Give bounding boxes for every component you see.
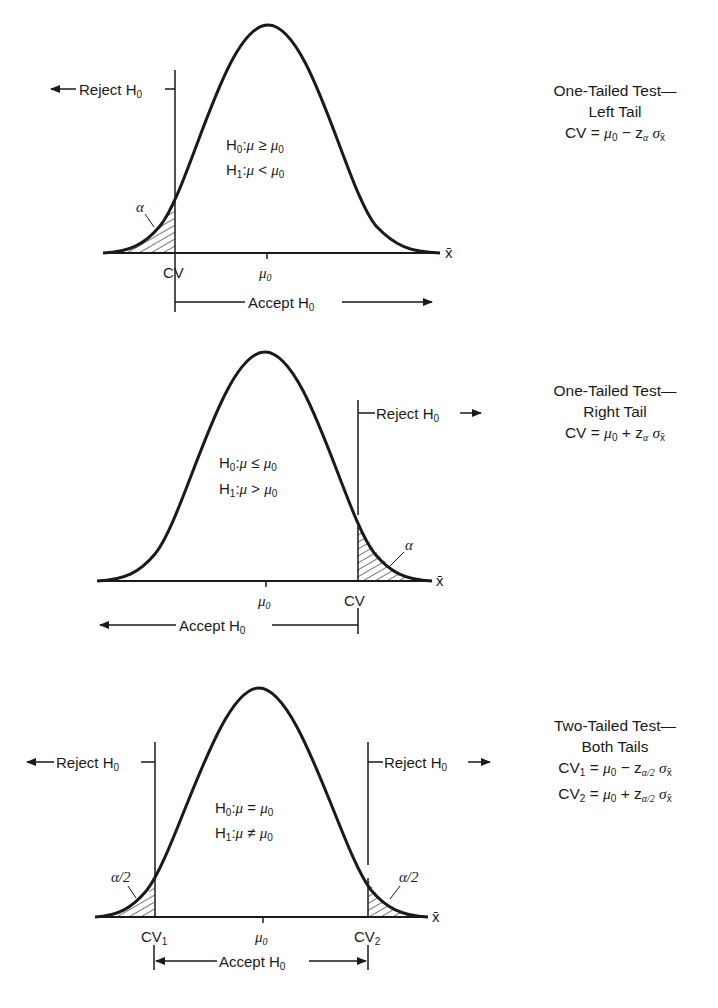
mu0-label: μ0 [258, 265, 272, 283]
xbar-label: x̄ [445, 244, 453, 261]
xbar-label: x̄ [432, 908, 440, 925]
cv-label: CV [163, 264, 184, 281]
h0-statement: H0:μ = μ0 [215, 799, 274, 818]
alpha-half-label-left: α/2 [111, 869, 131, 885]
accept-label: Accept H0 [219, 953, 286, 972]
alpha-half-label-right: α/2 [399, 869, 419, 885]
cv2-label: CV2 [354, 928, 381, 947]
accept-label: Accept H0 [248, 294, 315, 313]
cv-formula: CV = μ0 + zα σx̄ [530, 422, 700, 448]
panel-left-tail: Reject H0 Accept H0 CV μ0 x̄ α H0:μ ≥ μ0… [51, 25, 453, 313]
hypothesis-test-diagram: Reject H0 Accept H0 CV μ0 x̄ α H0:μ ≥ μ0… [0, 0, 718, 1008]
test-subtitle: Both Tails [530, 736, 700, 757]
side-label-two-tail: Two-Tailed Test— Both Tails CV1 = μ0 − z… [530, 715, 700, 809]
h1-statement: H1:μ < μ0 [226, 161, 285, 180]
test-subtitle: Right Tail [530, 401, 700, 422]
side-label-left-tail: One-Tailed Test— Left Tail CV = μ0 − zα … [530, 80, 700, 148]
reject-label-right: Reject H0 [384, 754, 448, 773]
h1-statement: H1:μ > μ0 [219, 480, 278, 499]
panel-two-tail: Reject H0 Reject H0 Accept H0 CV1 CV2 μ0… [27, 688, 490, 972]
side-label-right-tail: One-Tailed Test— Right Tail CV = μ0 + zα… [530, 380, 700, 448]
test-subtitle: Left Tail [530, 101, 700, 122]
cv-label: CV [344, 592, 365, 609]
h0-statement: H0:μ ≤ μ0 [219, 454, 277, 473]
test-title: Two-Tailed Test— [530, 715, 700, 736]
test-title: One-Tailed Test— [530, 80, 700, 101]
cv1-formula: CV1 = μ0 − zα/2 σx̄ [530, 757, 700, 783]
mu0-label: μ0 [257, 593, 271, 611]
test-title: One-Tailed Test— [530, 380, 700, 401]
alpha-label: α [136, 199, 145, 215]
reject-label: Reject H0 [79, 81, 143, 100]
reject-label-left: Reject H0 [56, 754, 120, 773]
cv2-formula: CV2 = μ0 + zα/2 σx̄ [530, 783, 700, 809]
panel-right-tail: Reject H0 Accept H0 CV μ0 x̄ α H0:μ ≤ μ0… [97, 352, 481, 636]
cv1-label: CV1 [141, 928, 168, 947]
reject-label: Reject H0 [376, 405, 440, 424]
accept-label: Accept H0 [179, 617, 246, 636]
h0-statement: H0:μ ≥ μ0 [226, 136, 284, 155]
mu0-label: μ0 [254, 929, 268, 947]
xbar-label: x̄ [436, 572, 444, 589]
h1-statement: H1:μ ≠ μ0 [215, 824, 273, 843]
cv-formula: CV = μ0 − zα σx̄ [530, 122, 700, 148]
alpha-label: α [405, 537, 414, 553]
